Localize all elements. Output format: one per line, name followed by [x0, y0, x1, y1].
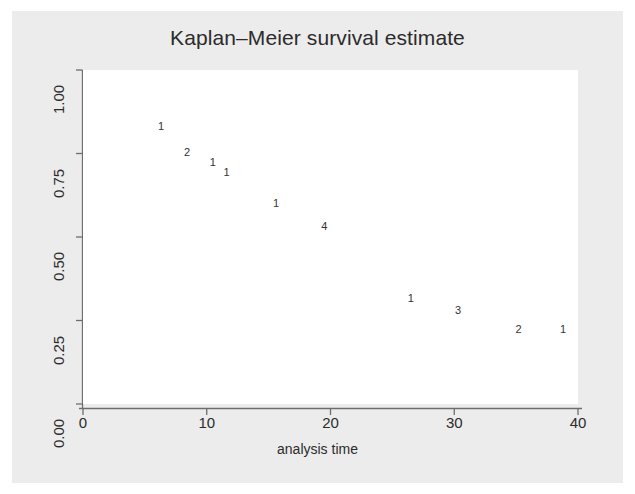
plot-area: 1211141321	[83, 70, 578, 404]
censor-count-label: 1	[153, 120, 169, 132]
censor-count-label: 3	[450, 304, 466, 316]
censor-count-label: 2	[511, 323, 527, 335]
censor-count-label: 4	[316, 220, 332, 232]
censor-count-label: 1	[403, 292, 419, 304]
censor-count-label: 2	[179, 146, 195, 158]
chart-screenshot: Kaplan–Meier survival estimate 0.000.250…	[0, 0, 635, 494]
censor-count-label: 1	[555, 323, 571, 335]
censor-count-label: 1	[268, 197, 284, 209]
censor-count-label: 1	[219, 166, 235, 178]
